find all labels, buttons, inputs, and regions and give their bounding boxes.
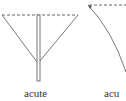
figure-acute-right bbox=[88, 5, 126, 72]
diagram-canvas bbox=[0, 0, 126, 101]
figure-acute-left bbox=[2, 15, 78, 81]
stem bbox=[37, 15, 40, 81]
figure-label-right: acu bbox=[104, 87, 119, 99]
curved-arc bbox=[88, 5, 126, 72]
right-edge bbox=[39, 15, 78, 62]
figure-label-left: acute bbox=[24, 87, 47, 99]
left-edge bbox=[2, 15, 37, 62]
